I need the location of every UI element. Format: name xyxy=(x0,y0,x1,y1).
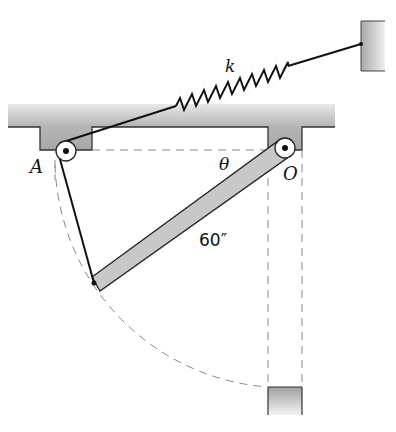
mechanism-diagram: k A O θ 60″ xyxy=(0,0,396,432)
reference-dashed-lines xyxy=(55,150,302,387)
spring-label: k xyxy=(225,56,235,76)
pivot-o-label: O xyxy=(283,163,298,184)
bar-end-pin xyxy=(92,281,97,286)
pivot-o xyxy=(275,138,295,158)
pulley-a xyxy=(56,141,76,161)
bar-length-label: 60″ xyxy=(199,230,227,250)
floor-stop xyxy=(268,387,302,415)
pulley-a-label: A xyxy=(28,156,43,177)
wall-anchor xyxy=(361,21,385,71)
bar-link xyxy=(92,141,290,291)
wall-attachment-pin xyxy=(359,42,363,46)
angle-theta-label: θ xyxy=(219,154,229,174)
